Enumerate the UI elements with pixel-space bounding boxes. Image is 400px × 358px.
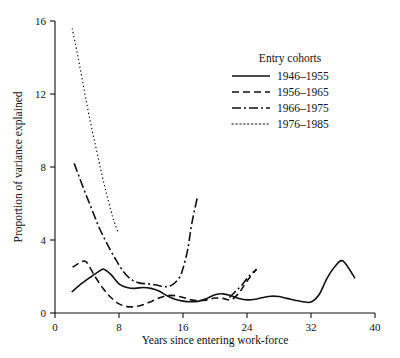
legend-entry-label: 1966–1975 [277,102,329,114]
legend-entry-label: 1976–1985 [277,118,329,130]
series-line-1976-1985 [72,28,118,232]
x-tick-label: 32 [306,321,317,333]
y-tick-label: 4 [41,234,47,246]
line-chart: 08162432400481216 Entry cohorts1946–1955… [0,0,400,358]
legend-title: Entry cohorts [259,52,322,65]
x-tick-label: 0 [52,321,58,333]
legend-entry-label: 1946–1955 [277,70,329,82]
x-tick-label: 16 [178,321,190,333]
chart-axes [50,21,375,318]
chart-legend: Entry cohorts1946–19551956–19651966–1975… [232,52,329,130]
y-tick-label: 0 [41,307,47,319]
legend-entry-label: 1956–1965 [277,86,329,98]
series-line-1966-1975 [74,163,197,286]
series-line-1966-1975 [229,269,256,297]
chart-tick-labels: 08162432400481216 [35,15,381,333]
series-line-1946-1955 [72,261,355,303]
x-axis-title: Years since entering work-force [142,334,289,347]
x-tick-label: 40 [370,321,382,333]
x-tick-label: 8 [116,321,122,333]
y-tick-label: 12 [35,88,46,100]
chart-figure: 08162432400481216 Entry cohorts1946–1955… [0,0,400,358]
y-tick-label: 16 [35,15,47,27]
y-axis-title: Proportion of variance explained [12,91,25,242]
series-line-1956-1965 [73,261,257,307]
y-tick-label: 8 [41,161,47,173]
x-tick-label: 24 [242,321,254,333]
